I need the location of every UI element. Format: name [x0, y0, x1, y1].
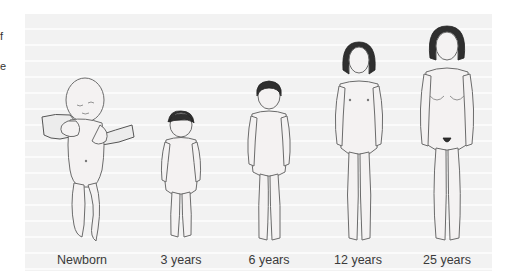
newborn-figure-icon — [40, 75, 135, 245]
stage-label-3-years: 3 years — [161, 253, 202, 267]
child-3-years-figure-icon — [158, 110, 204, 242]
cropped-text-fragment: e — [0, 60, 6, 72]
adolescent-12-years-figure-icon — [333, 40, 385, 244]
stage-label-6-years: 6 years — [249, 253, 290, 267]
stage-label-newborn: Newborn — [57, 253, 107, 267]
cropped-text-fragment: f — [0, 30, 3, 42]
stage-label-12-years: 12 years — [334, 253, 382, 267]
adult-25-years-figure-icon — [418, 24, 476, 244]
stage-label-25-years: 25 years — [423, 253, 471, 267]
child-6-years-figure-icon — [245, 80, 293, 244]
